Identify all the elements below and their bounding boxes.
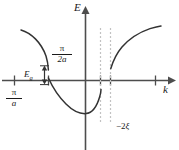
band-structure-figure: E k Eg π 2a π a −2ξ: [0, 0, 179, 150]
band-gap-arrow-head-down: [42, 80, 47, 85]
two-xi-label: −2ξ: [116, 122, 129, 131]
pi-over-2a-label: π 2a: [52, 44, 72, 65]
wavevector-axis-label: k: [163, 84, 168, 95]
pi-over-a-numerator: π: [6, 88, 22, 97]
xi-symbol: ξ: [126, 121, 130, 131]
curve-upper-band-left: [21, 30, 48, 70]
band-gap-label: Eg: [24, 70, 33, 81]
pi-over-2a-numerator: π: [52, 44, 72, 53]
E-axis-arrowhead: [82, 6, 90, 14]
pi-over-2a-denominator: 2a: [52, 55, 72, 64]
dashed-markers: [101, 28, 111, 122]
band-curves: [21, 26, 161, 114]
band-gap-subscript: g: [30, 74, 33, 81]
E-axis: [82, 6, 90, 150]
k-axis-arrowhead: [168, 77, 176, 85]
pi-over-a-label: π a: [6, 88, 22, 109]
curve-lower-band-center: [48, 78, 101, 114]
energy-axis-label: E: [74, 2, 81, 13]
pi-over-a-denominator: a: [6, 99, 22, 108]
curve-upper-band-right: [111, 26, 161, 69]
